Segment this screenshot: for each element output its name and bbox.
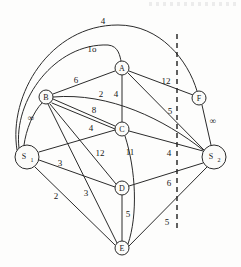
edge-weight-a-f: 12 (162, 76, 171, 86)
node-s1-sub: 1 (31, 157, 34, 163)
edge-weight-b-a: 6 (74, 75, 79, 85)
node-b[interactable]: B (39, 90, 53, 104)
figure-canvas: S 1 B A C D E (0, 0, 241, 267)
edge-weight-b-e: 3 (84, 188, 89, 198)
edge-weight-b-c: 8 (92, 105, 97, 115)
edge-b-a (53, 71, 115, 94)
node-d-label: D (119, 184, 125, 193)
node-e[interactable]: E (115, 241, 129, 255)
edge-s1-f (16, 25, 197, 150)
edge-weight-b-s2: 2 (99, 89, 104, 99)
edge-weight-s1-d: 3 (58, 158, 63, 168)
node-a[interactable]: A (115, 61, 129, 75)
edge-weight-c-e: 11 (126, 147, 135, 157)
node-s2-label: S (209, 152, 213, 161)
edge-weight-s1-f: 4 (101, 16, 106, 26)
edge-b-e (48, 104, 117, 243)
edge-b-c (53, 99, 115, 126)
edge-weight-f-s2: ∞ (210, 116, 216, 126)
node-c[interactable]: C (115, 122, 129, 136)
network-graph: S 1 B A C D E (0, 0, 241, 267)
node-a-label: A (119, 64, 125, 73)
edge-b-s2 (53, 96, 203, 150)
edge-weight-s1-e: 2 (54, 191, 59, 201)
edge-s1-d (39, 160, 115, 187)
edge-weight-s1-a: 1o (88, 44, 98, 54)
node-s2-sub: 2 (218, 157, 221, 163)
edge-group (16, 25, 211, 246)
node-d[interactable]: D (115, 181, 129, 195)
node-f-label: F (197, 94, 202, 103)
node-s1-label: S (22, 152, 26, 161)
edge-weight-d-s2: 6 (167, 178, 172, 188)
node-e-label: E (120, 244, 125, 253)
node-f[interactable]: F (192, 91, 206, 105)
edge-s1-b (24, 103, 42, 145)
edge-weight-a-s2: 5 (168, 106, 173, 116)
edge-weight-a-c: 4 (114, 89, 119, 99)
edge-weight-b-d: 12 (96, 148, 105, 158)
node-s1[interactable]: S 1 (15, 145, 39, 169)
edge-weight-e-s2: 5 (165, 217, 170, 227)
node-b-label: B (43, 93, 48, 102)
edge-b-c-lower (52, 103, 115, 129)
node-group: S 1 B A C D E (15, 61, 226, 255)
edge-weight-b-c-lower: 4 (89, 123, 94, 133)
edge-weight-d-e: 5 (126, 209, 131, 219)
edge-weight-s1-b: ∞ (28, 113, 34, 123)
node-c-label: C (119, 125, 124, 134)
edge-s1-e (35, 167, 115, 245)
node-s2[interactable]: S 2 (202, 145, 226, 169)
edge-weight-c-s2: 4 (167, 148, 172, 158)
